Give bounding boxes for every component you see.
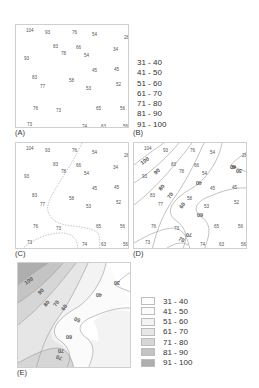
legend-swatch-6 xyxy=(141,348,155,356)
sample-point-value: 77 xyxy=(40,84,45,89)
legend-e-row-3: 51 - 60 xyxy=(141,317,192,327)
sample-point-value: 93 xyxy=(142,174,147,179)
legend-swatch-1 xyxy=(141,297,155,305)
sample-point-value: 58 xyxy=(69,196,74,201)
sample-point-value: 63 xyxy=(219,242,224,247)
sample-point-value: 53 xyxy=(204,204,209,209)
shaded-isopleth-map: 100 90 80 70 60 50 40 30 60 70 70 xyxy=(18,263,131,368)
sample-point-value: 63 xyxy=(101,242,106,247)
sample-point-value: 52 xyxy=(116,82,121,87)
sample-point-value: 104 xyxy=(26,146,34,151)
sample-point-value: 73 xyxy=(27,122,32,127)
sample-point-value: 56 xyxy=(123,124,128,128)
sample-point-value: 34 xyxy=(113,165,118,170)
sample-point-value: 83 xyxy=(32,193,37,198)
sample-point-value: 78 xyxy=(61,51,66,56)
e-contour-label-40: 40 xyxy=(96,292,102,298)
legend-e-row-4: 61 - 70 xyxy=(141,327,192,337)
sample-point-value: 45 xyxy=(92,186,97,191)
sample-point-value: 74 xyxy=(200,242,205,247)
sample-point-value: 28 xyxy=(242,153,247,158)
contour-label-60b: 60 xyxy=(197,212,203,218)
sample-point-value: 56 xyxy=(241,242,246,247)
sample-point-value: 65 xyxy=(96,224,101,229)
sample-point-value: 78 xyxy=(61,169,66,174)
legend-swatch-7 xyxy=(141,359,155,367)
sample-point-value: 65 xyxy=(96,106,101,111)
e-contour-label-70b: 70 xyxy=(58,348,64,354)
sample-point-value: 93 xyxy=(24,56,29,61)
panel-d-label: (D) xyxy=(133,250,143,258)
sample-point-value: 76 xyxy=(72,30,77,35)
legend-e-class-1: 31 - 40 xyxy=(163,297,188,306)
sample-point-value: 56 xyxy=(120,224,125,229)
sample-point-value: 66 xyxy=(194,163,199,168)
sample-point-value: 83 xyxy=(171,162,176,167)
sample-point-value: 58 xyxy=(69,78,74,83)
sample-point-value: 54 xyxy=(92,32,97,37)
sample-point-value: 54 xyxy=(84,53,89,58)
legend-b-class-2: 41 - 50 xyxy=(137,68,166,78)
contour-label-80: 80 xyxy=(157,183,166,192)
panel-c-dashed-boundaries: 1049376542883663478549345458358527753767… xyxy=(15,142,129,249)
legend-e-row-6: 81 - 90 xyxy=(141,347,192,357)
legend-e-class-7: 91 - 100 xyxy=(163,358,192,367)
legend-swatch-4 xyxy=(141,328,155,336)
sample-point-value: 83 xyxy=(32,75,37,80)
sample-point-value: 56 xyxy=(123,242,128,247)
sample-point-value: 56 xyxy=(120,106,125,111)
contour-label-70b: 70 xyxy=(186,232,192,238)
sample-point-value: 77 xyxy=(158,202,163,207)
sample-point-value: 45 xyxy=(92,68,97,73)
sample-point-value: 83 xyxy=(53,162,58,167)
sample-point-value: 78 xyxy=(179,169,184,174)
legend-e-class-4: 61 - 70 xyxy=(163,327,188,336)
sample-point-value: 76 xyxy=(33,224,38,229)
contour-label-100: 100 xyxy=(139,156,150,166)
legend-swatch-3 xyxy=(141,318,155,326)
sample-point-value: 73 xyxy=(174,226,179,231)
sample-point-value: 58 xyxy=(187,196,192,201)
sample-point-value: 54 xyxy=(84,171,89,176)
contour-label-40: 40 xyxy=(196,180,202,186)
e-contour-label-60b: 60 xyxy=(66,334,72,340)
contour-label-30: 30 xyxy=(236,168,242,174)
sample-point-value: 73 xyxy=(27,240,32,245)
sample-point-value: 45 xyxy=(114,185,119,190)
sample-point-value: 93 xyxy=(163,148,168,153)
sample-point-value: 45 xyxy=(114,67,119,72)
sample-point-value: 45 xyxy=(232,185,237,190)
sample-point-value: 34 xyxy=(231,165,236,170)
sample-point-value: 28 xyxy=(124,35,129,40)
sample-point-value: 52 xyxy=(234,200,239,205)
legend-e-class-3: 51 - 60 xyxy=(163,317,188,326)
panel-b-label: (B) xyxy=(133,129,143,137)
sample-point-value: 93 xyxy=(45,30,50,35)
legend-b-class-4: 61 - 70 xyxy=(137,89,166,99)
sample-point-value: 83 xyxy=(150,193,155,198)
legend-e-class-6: 81 - 90 xyxy=(163,348,188,357)
sample-point-value: 76 xyxy=(33,106,38,111)
legend-e-row-2: 41 - 50 xyxy=(141,306,192,316)
sample-point-value: 73 xyxy=(56,108,61,113)
sample-point-value: 56 xyxy=(238,224,243,229)
sample-point-value: 34 xyxy=(113,47,118,52)
sample-point-value: 54 xyxy=(202,171,207,176)
legend-swatch-5 xyxy=(141,338,155,346)
sample-point-value: 74 xyxy=(82,124,87,128)
e-contour-label-30: 30 xyxy=(114,280,120,286)
contour-label-70c: 70 xyxy=(178,235,186,243)
sample-point-value: 76 xyxy=(72,148,77,153)
shaded-legend-e: 31 - 40 41 - 50 51 - 60 61 - 70 71 - 80 … xyxy=(141,296,192,368)
legend-b-class-3: 51 - 60 xyxy=(137,79,166,89)
sample-point-value: 66 xyxy=(76,163,81,168)
legend-b-class-5: 71 - 80 xyxy=(137,99,166,109)
sample-point-value: 74 xyxy=(82,242,87,247)
legend-b-class-1: 31 - 40 xyxy=(137,58,166,68)
contour-label-60: 60 xyxy=(178,201,186,209)
legend-e-row-1: 31 - 40 xyxy=(141,296,192,306)
sample-point-value: 53 xyxy=(86,204,91,209)
sample-point-value: 83 xyxy=(53,44,58,49)
sample-point-value: 54 xyxy=(210,150,215,155)
sample-point-value: 73 xyxy=(145,240,150,245)
